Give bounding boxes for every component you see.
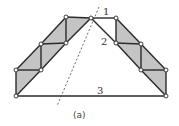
joint-node — [164, 68, 168, 72]
shaded-panels — [16, 17, 166, 96]
joint-node — [39, 68, 43, 72]
truss-member — [116, 43, 141, 44]
joint-node — [114, 16, 118, 20]
truss-member — [41, 43, 66, 44]
truss-member — [66, 17, 91, 18]
joint-node — [64, 41, 68, 45]
joint-node — [39, 42, 43, 46]
member-label-2: 2 — [101, 36, 107, 47]
figure-caption: (a) — [73, 110, 86, 120]
member-label-1: 1 — [103, 6, 109, 17]
joint-node — [14, 94, 18, 98]
joint-node — [14, 68, 18, 72]
joint-node — [89, 16, 93, 20]
joint-node — [164, 94, 168, 98]
joint-node — [64, 15, 68, 19]
member-label-3: 3 — [97, 85, 103, 96]
joint-node — [114, 41, 118, 45]
joint-node — [139, 68, 143, 72]
joint-node — [139, 42, 143, 46]
truss-diagram: 1 2 3 (a) — [0, 0, 179, 126]
